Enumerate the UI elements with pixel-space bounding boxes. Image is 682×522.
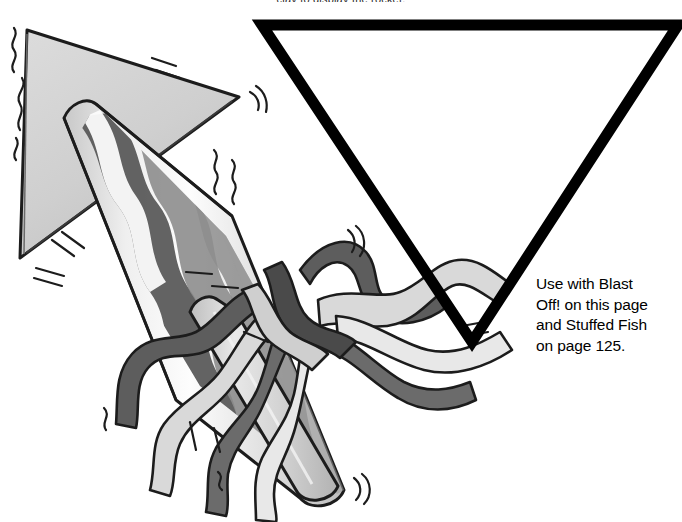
page-canvas: clay to display the rocket. (0, 0, 682, 522)
usage-note: Use with Blast Off! on this page and Stu… (536, 274, 676, 356)
motion-line-fin-bottom-2 (34, 278, 62, 286)
motion-line-fin-bottom-3 (52, 240, 74, 256)
illustration-artboard (0, 0, 682, 522)
motion-line-fin-bottom-1 (36, 268, 64, 276)
note-line-1: Use with Blast (536, 274, 676, 295)
motion-line-body-squiggle-2 (232, 160, 236, 204)
note-line-4: on page 125. (536, 336, 676, 357)
motion-line-fin-tip-1 (250, 92, 259, 110)
motion-line-tail-tip-1 (354, 478, 360, 500)
note-line-2: Off! on this page (536, 295, 676, 316)
motion-line-body-squiggle (214, 150, 218, 194)
motion-line-fin-bottom-4 (62, 232, 84, 248)
motion-line-left-ribbon (104, 408, 107, 430)
motion-line-fin-right-1 (152, 58, 176, 66)
motion-line-left-squiggle-3 (14, 138, 17, 160)
motion-line-left-squiggle-1 (12, 28, 15, 72)
motion-line-tail-tip-2 (362, 474, 370, 504)
note-line-3: and Stuffed Fish (536, 315, 676, 336)
